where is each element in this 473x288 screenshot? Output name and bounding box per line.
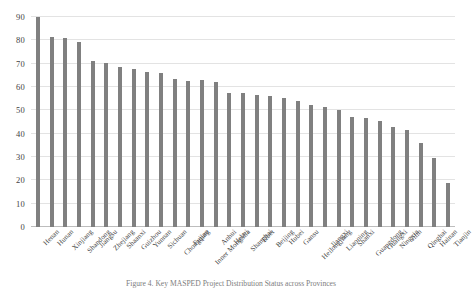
y-axis-tick-label: 20 [16, 175, 25, 185]
bar [350, 117, 354, 227]
bar [323, 107, 327, 227]
bar [337, 110, 341, 227]
bar-slot [72, 17, 86, 227]
bar [296, 101, 300, 227]
bar [63, 38, 67, 227]
bar-slot [154, 17, 168, 227]
bar-slot [441, 17, 455, 227]
bar [391, 127, 395, 227]
bar [214, 82, 218, 227]
bar [173, 79, 177, 227]
x-axis-category-labels: HenanHunanXinjiangShandongJiangsuZhejian… [31, 228, 455, 274]
x-axis-category-label: Fujian [192, 228, 211, 247]
bar [255, 95, 259, 227]
bar-slot [332, 17, 346, 227]
y-axis-tick-label: 10 [16, 199, 25, 209]
bar-slot [400, 17, 414, 227]
bar-slot [318, 17, 332, 227]
bar-slot [359, 17, 373, 227]
y-axis-tick-label: 30 [16, 152, 25, 162]
bar-slot [127, 17, 141, 227]
bar [50, 37, 54, 227]
plot-area [31, 17, 455, 227]
bar [282, 98, 286, 227]
bar [405, 130, 409, 227]
y-axis-tick-label: 70 [16, 59, 25, 69]
bar-slot [414, 17, 428, 227]
y-axis-tick-label: 0 [21, 222, 25, 232]
bar [378, 121, 382, 227]
bar-slot [45, 17, 59, 227]
bar-slot [305, 17, 319, 227]
bar [227, 93, 231, 227]
bar [309, 105, 313, 228]
bar-slot [99, 17, 113, 227]
bar [104, 63, 108, 227]
bar-slot [346, 17, 360, 227]
x-axis-category-label: Gansu [301, 228, 320, 247]
bar [145, 72, 149, 227]
y-axis-tick-labels: 0102030405060708090 [0, 17, 28, 227]
bar-slot [195, 17, 209, 227]
bar-slot [428, 17, 442, 227]
bar [364, 118, 368, 227]
y-axis-tick-label: 50 [16, 105, 25, 115]
bar [268, 96, 272, 227]
bar [132, 69, 136, 227]
bar-slot [387, 17, 401, 227]
bar-slot [264, 17, 278, 227]
bar [419, 143, 423, 227]
bar-slot [250, 17, 264, 227]
bar [186, 81, 190, 227]
bar-slot [86, 17, 100, 227]
bar [91, 61, 95, 227]
bar-slot [222, 17, 236, 227]
bar [200, 80, 204, 227]
bar [432, 158, 436, 227]
figure-caption: Figure 4. Key MASPED Project Distributio… [0, 279, 462, 288]
bar [446, 183, 450, 227]
bar [77, 42, 81, 228]
bar-series [31, 17, 455, 227]
bar-slot [291, 17, 305, 227]
bar-slot [140, 17, 154, 227]
bar [159, 73, 163, 227]
y-axis-tick-label: 90 [16, 12, 25, 22]
y-axis-tick-label: 40 [16, 129, 25, 139]
bar-slot [209, 17, 223, 227]
bar [36, 17, 40, 227]
bar-slot [277, 17, 291, 227]
bar-slot [373, 17, 387, 227]
bar-slot [31, 17, 45, 227]
bar-slot [168, 17, 182, 227]
y-axis-tick-label: 80 [16, 35, 25, 45]
bar-slot [58, 17, 72, 227]
bar [241, 93, 245, 227]
bar [118, 67, 122, 227]
y-axis-tick-label: 60 [16, 82, 25, 92]
bar-slot [236, 17, 250, 227]
bar-slot [181, 17, 195, 227]
bar-slot [113, 17, 127, 227]
